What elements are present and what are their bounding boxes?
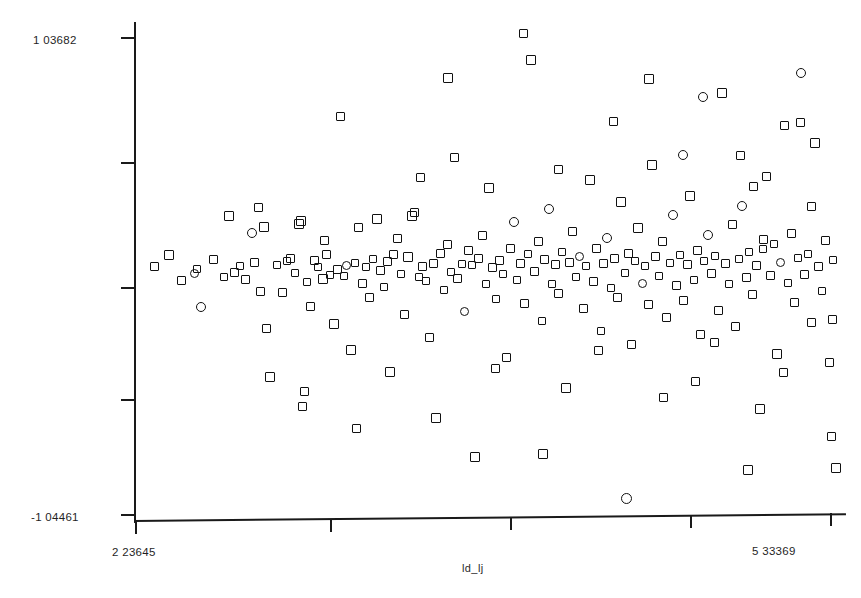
scatter-point [766, 271, 775, 280]
scatter-point [666, 259, 674, 267]
scatter-point [447, 268, 455, 276]
scatter-point [672, 281, 681, 290]
scatter-point [683, 260, 692, 269]
scatter-point [737, 201, 747, 211]
scatter-point [685, 191, 695, 201]
scatter-point [644, 300, 653, 309]
y-axis-min-label: -1 04461 [31, 511, 79, 523]
scatter-point [818, 287, 826, 295]
scatter-point [748, 290, 757, 299]
scatter-point [540, 255, 549, 264]
scatter-point [538, 449, 548, 459]
scatter-point [655, 272, 663, 280]
scatter-point [294, 219, 304, 229]
scatter-point [491, 364, 500, 373]
scatter-point [230, 268, 239, 277]
scatter-point [474, 254, 483, 263]
scatter-point [278, 288, 287, 297]
scatter-point [609, 117, 618, 126]
scatter-point [731, 322, 740, 331]
scatter-point [478, 231, 487, 240]
scatter-point [254, 203, 263, 212]
scatter-point [703, 230, 713, 240]
scatter-point [599, 259, 608, 268]
scatter-point [607, 284, 615, 292]
scatter-point [776, 258, 785, 267]
scatter-point [177, 276, 186, 285]
scatter-point [627, 340, 636, 349]
scatter-point [502, 353, 511, 362]
scatter-point [784, 279, 792, 287]
scatter-point [561, 383, 571, 393]
scatter-point [762, 172, 771, 181]
scatter-point [440, 286, 448, 294]
scatter-point [796, 118, 805, 127]
scatter-point [306, 302, 315, 311]
scatter-point [579, 304, 588, 313]
scatter-point [298, 402, 307, 411]
scatter-point [346, 345, 356, 355]
scatter-point [520, 299, 529, 308]
scatter-point [565, 258, 574, 267]
y-axis-tick [121, 162, 134, 164]
scatter-point [389, 250, 398, 259]
scatter-point [468, 261, 476, 269]
scatter-point [736, 151, 745, 160]
scatter-point [495, 256, 504, 265]
scatter-point [310, 256, 319, 265]
scatter-point [354, 223, 363, 232]
scatter-point [256, 287, 265, 296]
scatter-point [710, 338, 719, 347]
scatter-point [779, 368, 788, 377]
scatter-point [538, 317, 546, 325]
scatter-point [589, 277, 598, 286]
scatter-point [759, 235, 768, 244]
scatter-point [372, 214, 382, 224]
scatter-point [509, 217, 519, 227]
scatter-point [340, 272, 348, 280]
scatter-point [678, 150, 688, 160]
scatter-point [585, 175, 595, 185]
scatter-point [575, 252, 584, 261]
scatter-point [728, 220, 737, 229]
scatter-point [358, 279, 367, 288]
scatter-point [743, 465, 753, 475]
scatter-point [814, 262, 823, 271]
scatter-point [554, 289, 563, 298]
scatter-point [641, 262, 649, 270]
scatter-point [745, 248, 753, 256]
scatter-point [755, 404, 765, 414]
scatter-point [594, 346, 603, 355]
scatter-point [752, 261, 761, 270]
scatter-point [742, 273, 751, 282]
scatter-point [418, 262, 427, 271]
scatter-point [651, 252, 660, 261]
scatter-point [259, 222, 269, 232]
scatter-point [393, 234, 402, 243]
scatter-point [513, 276, 521, 284]
scatter-point [329, 319, 339, 329]
scatter-point [749, 182, 758, 191]
scatter-point [322, 250, 331, 259]
scatter-point [679, 296, 688, 305]
y-axis-max-label: 1 03682 [33, 34, 77, 46]
scatter-point [796, 68, 806, 78]
y-axis-tick [121, 37, 134, 39]
scatter-point [572, 273, 580, 281]
scatter-point [164, 250, 174, 260]
scatter-point [827, 432, 836, 441]
scatter-point [829, 256, 837, 264]
scatter-point [422, 277, 430, 285]
scatter-point [616, 197, 626, 207]
scatter-point [250, 258, 259, 267]
scatter-point [658, 237, 667, 246]
scatter-point [524, 250, 532, 258]
x-axis-line [134, 513, 846, 522]
scatter-point [318, 274, 328, 284]
x-axis-tick [830, 513, 832, 526]
scatter-point [273, 261, 281, 269]
scatter-point [659, 393, 668, 402]
y-axis-tick [121, 514, 134, 516]
scatter-point [265, 372, 275, 382]
scatter-point [458, 260, 466, 268]
